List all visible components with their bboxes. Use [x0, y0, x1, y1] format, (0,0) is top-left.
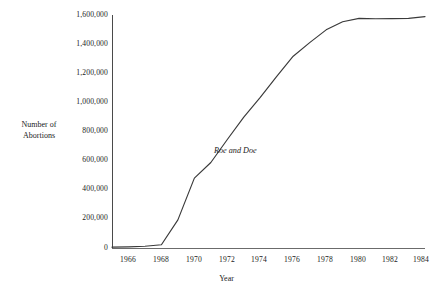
x-tick-label: 1974	[251, 255, 267, 264]
x-axis-title: Year	[0, 274, 435, 284]
x-tick-label: 1984	[413, 255, 429, 264]
x-tick-label: 1972	[219, 255, 235, 264]
x-tick-label: 1980	[350, 255, 366, 264]
x-tick-label: 1976	[284, 255, 300, 264]
y-axis-title-line-1: Number of	[8, 120, 70, 131]
x-tick-label: 1982	[382, 255, 398, 264]
annotation-roe-and-doe: Roe and Doe	[214, 146, 257, 156]
y-axis-title-line-2: Abortions	[8, 131, 70, 142]
x-axis-tick-labels: 1966 1968 1970 1972 1974 1976 1978 1980 …	[0, 255, 435, 269]
y-axis-title: Number of Abortions	[8, 120, 70, 141]
x-tick-label: 1968	[153, 255, 169, 264]
x-tick-label: 1970	[186, 255, 202, 264]
x-axis-title-text: Year	[219, 274, 234, 284]
x-tick-label: 1966	[120, 255, 136, 264]
abortions-line-chart: 1,600,000 1,400,000 1,200,000 1,000,000 …	[0, 0, 435, 304]
x-tick-label: 1978	[317, 255, 333, 264]
